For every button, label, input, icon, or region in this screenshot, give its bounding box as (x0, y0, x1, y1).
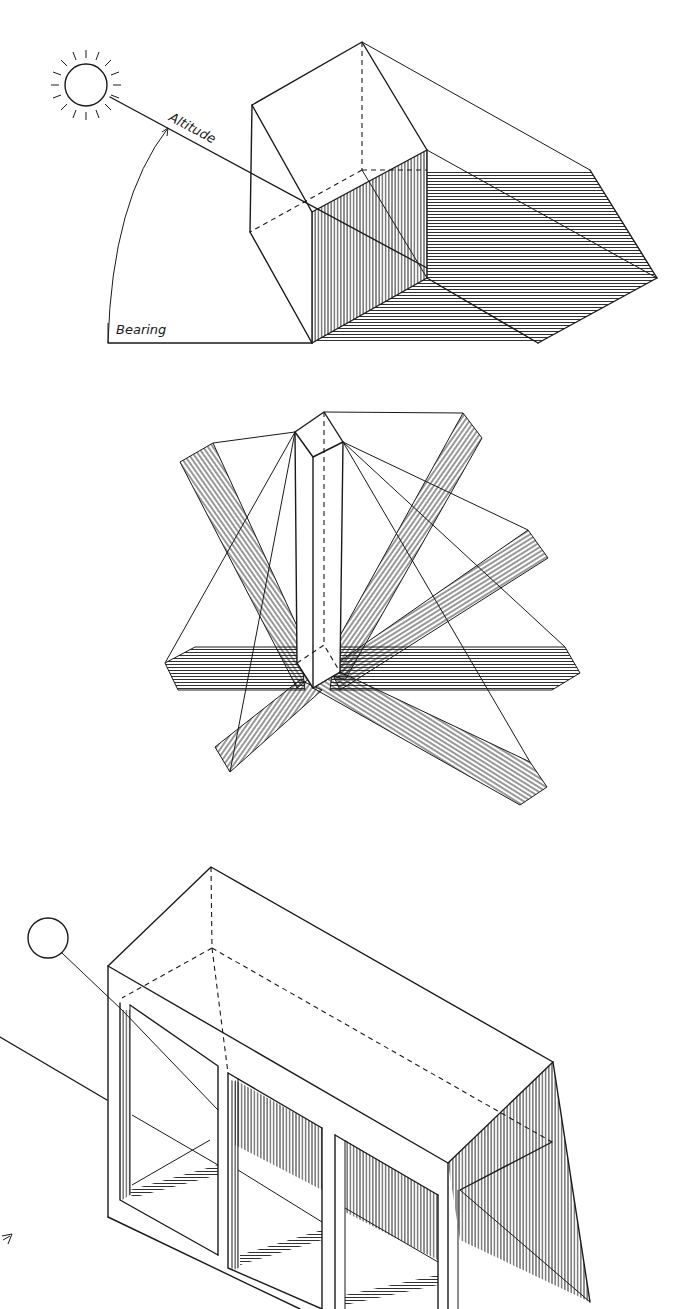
pillar-shadow-figure (165, 412, 580, 805)
sun-icon (51, 50, 121, 120)
bearing-label: Bearing (116, 322, 166, 337)
ground-line (0, 1037, 107, 1100)
shadow-bar (165, 647, 305, 690)
diagram-canvas: Altitude Bearing (0, 0, 699, 1309)
building-figure (0, 867, 590, 1309)
shadow-bar (330, 647, 580, 690)
side-shadow (448, 1062, 590, 1302)
window-shadow (345, 1140, 438, 1260)
north-arrow-icon (2, 1234, 12, 1244)
shadow-bar (313, 672, 547, 805)
shadow-bar (215, 680, 322, 772)
window-shadow (235, 1080, 322, 1190)
altitude-arc (108, 128, 168, 343)
sun-angle-figure: Altitude Bearing (51, 42, 657, 343)
